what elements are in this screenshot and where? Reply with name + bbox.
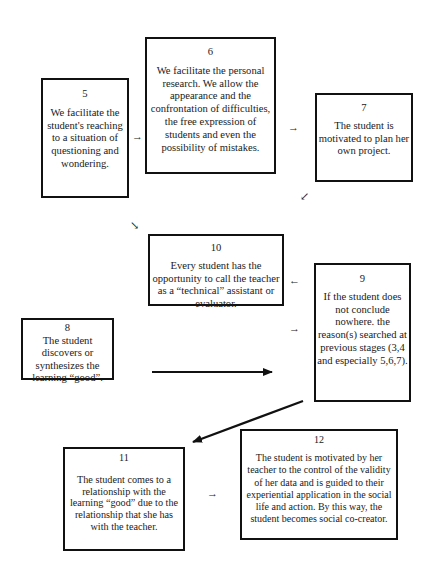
step-box-8: 8 The student discovers or synthesizes t… (21, 318, 114, 380)
step-text: The student comes to a relationship with… (65, 474, 183, 533)
arrow-right-icon: → (132, 131, 143, 142)
step-number: 10 (150, 242, 282, 255)
step-number: 6 (147, 46, 274, 59)
step-text: The student is motivated to plan her own… (317, 120, 411, 158)
arrow-right-icon: → (207, 488, 218, 499)
step-number: 7 (317, 102, 411, 115)
step-box-7: 7 The student is motivated to plan her o… (315, 93, 413, 182)
step-number: 9 (316, 273, 409, 286)
step-number: 5 (43, 88, 127, 101)
step-box-5: 5 We facilitate the student's reaching t… (41, 78, 129, 198)
step-text: We facilitate the student's reaching to … (43, 107, 127, 171)
arrow-right-icon: → (288, 122, 299, 133)
step-box-11: 11 The student comes to a relationship w… (63, 447, 185, 551)
step-box-12: 12 The student is motivated by her teach… (240, 429, 398, 540)
step-box-10: 10 Every student has the opportunity to … (148, 234, 284, 306)
arrow-down-left-icon: ↙ (300, 191, 309, 202)
step-text: If the student does not conclude nowhere… (316, 291, 409, 368)
step-text: Every student has the opportunity to cal… (150, 260, 282, 311)
arrow-right-icon: → (289, 323, 300, 334)
step-text: The student is motivated by her teacher … (242, 452, 396, 525)
step-number: 12 (242, 434, 396, 446)
step-box-9: 9 If the student does not conclude nowhe… (314, 263, 411, 402)
step-text: The student discovers or synthesizes the… (23, 335, 112, 385)
step-number: 11 (65, 452, 183, 464)
step-number: 8 (23, 322, 112, 335)
arrow-down-right-icon: ↘ (130, 220, 139, 231)
step-text: We facilitate the personal research. We … (147, 65, 274, 155)
arrow-left-icon: ← (289, 275, 300, 286)
step-box-6: 6 We facilitate the personal research. W… (145, 37, 276, 174)
